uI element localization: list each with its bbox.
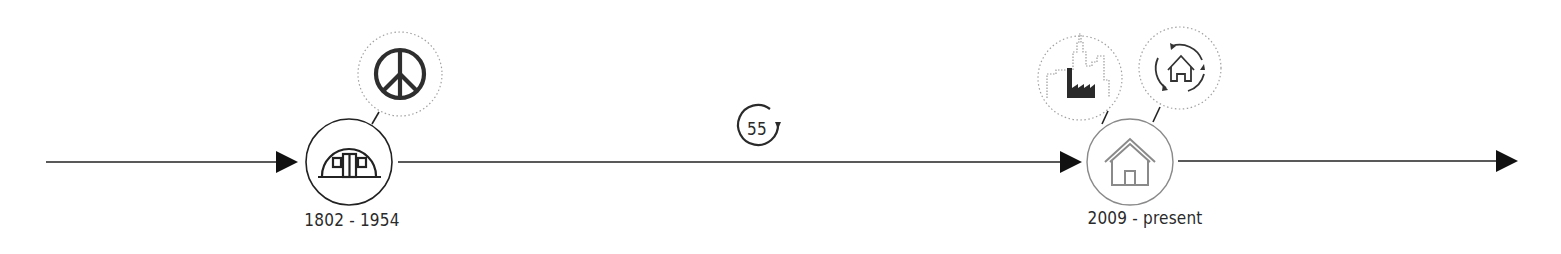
peace-sign-icon <box>376 50 424 98</box>
milestone-node-1 <box>306 32 442 205</box>
timeline-segment-end <box>1178 150 1518 172</box>
timeline-diagram <box>0 0 1561 254</box>
arrowhead-icon <box>1496 150 1518 172</box>
timeline-segment-start <box>46 151 298 173</box>
house-cycle-icon <box>1156 43 1205 91</box>
milestone-1-label: 1802 - 1954 <box>304 210 399 230</box>
milestone-2-label: 2009 - present <box>1087 208 1202 228</box>
milestone-node-2 <box>1038 27 1221 205</box>
arrowhead-icon <box>276 151 298 173</box>
timeline-segment-middle <box>398 151 1082 173</box>
interval-value: 55 <box>747 119 767 139</box>
related-node-peace <box>358 32 442 116</box>
related-node-house-cycle <box>1139 27 1221 109</box>
related-node-city <box>1038 34 1122 120</box>
arrowhead-icon <box>1060 151 1082 173</box>
